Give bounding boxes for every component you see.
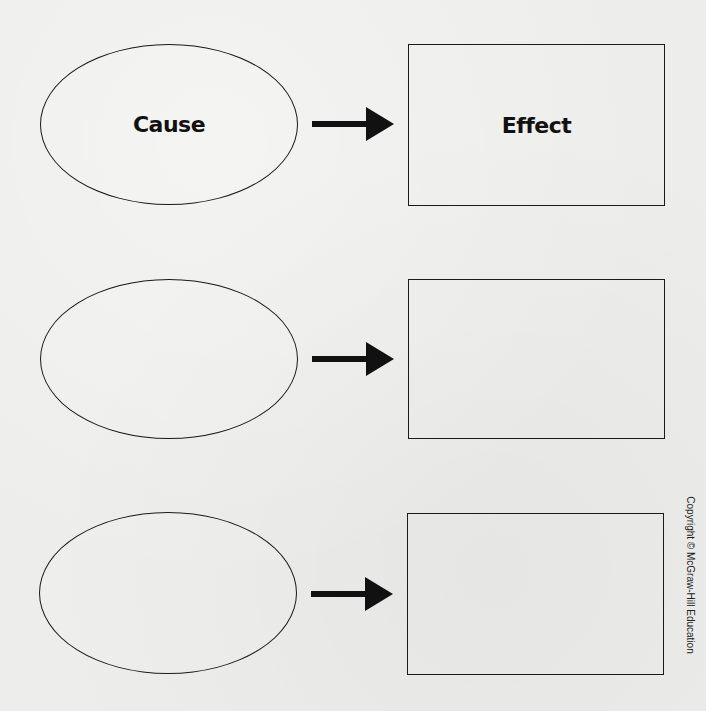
effect-label-1: Effect (502, 113, 572, 138)
cause-label-1: Cause (133, 112, 205, 137)
right-arrow-icon (310, 341, 396, 377)
cause-ellipse-2[interactable] (40, 279, 298, 439)
effect-box-3[interactable] (407, 513, 664, 675)
effect-box-1[interactable]: Effect (408, 44, 665, 206)
right-arrow-icon (310, 106, 396, 142)
worksheet-page: Cause Effect Copyright © McGraw-Hill Edu… (0, 0, 706, 711)
copyright-notice: Copyright © McGraw-Hill Education (685, 496, 696, 653)
cause-ellipse-3[interactable] (39, 512, 297, 674)
right-arrow-icon (309, 576, 395, 612)
effect-box-2[interactable] (408, 279, 665, 439)
cause-ellipse-1[interactable]: Cause (40, 44, 298, 205)
